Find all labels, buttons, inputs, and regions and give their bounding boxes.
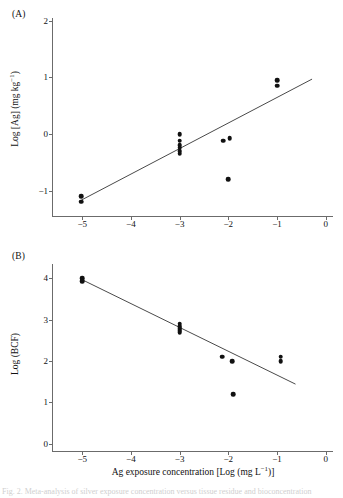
x-tick-label: −5 [77, 220, 87, 229]
panel-a-y-axis-title-sup: −1 [8, 74, 15, 81]
data-point [227, 136, 232, 141]
data-point [231, 392, 236, 397]
data-point [177, 330, 182, 335]
panel-b-regression-line [53, 264, 333, 451]
x-tick-label: 0 [323, 455, 328, 464]
panel-b: (B) Log (BCF) 43210 −5−4−3−2−10 Ag expos… [0, 246, 343, 498]
x-axis-title-pre: Ag exposure concentration [Log (mg L [112, 467, 261, 477]
y-tick-label: 1 [44, 73, 49, 82]
panel-a-y-axis-title-tail: ) [10, 71, 20, 74]
x-tick-label: −5 [77, 455, 87, 464]
data-point [177, 132, 182, 137]
y-tick-label: 4 [44, 274, 49, 283]
panel-a-y-axis-title: Log [Ag] (mg kg−1) [10, 71, 20, 147]
panel-a-y-axis-title-text: Log [Ag] (mg kg [10, 82, 20, 147]
x-tick-label: 0 [323, 220, 328, 229]
panel-b-plot-area: Log (BCF) 43210 −5−4−3−2−10 Ag exposure … [52, 264, 333, 452]
x-axis-title-post: )] [268, 467, 274, 477]
x-tick-label: −2 [224, 220, 234, 229]
data-point [221, 138, 226, 143]
data-point [220, 355, 225, 360]
data-point [80, 279, 85, 284]
data-point [279, 359, 284, 364]
data-point [79, 194, 84, 199]
x-tick-label: −4 [126, 455, 136, 464]
data-point [230, 359, 235, 364]
y-tick-label: 0 [44, 129, 49, 138]
panel-a-plot-area: Log [Ag] (mg kg−1) 210−1 −5−4−3−2−10 [52, 18, 333, 217]
panel-a-label: (A) [12, 9, 26, 19]
data-point [226, 177, 231, 182]
x-tick-label: −1 [272, 455, 282, 464]
panel-b-label: (B) [12, 251, 25, 261]
x-tick-label: −1 [272, 220, 282, 229]
panel-a-regression-line [53, 18, 333, 216]
figure-container: (A) Log [Ag] (mg kg−1) 210−1 −5−4−3−2−10… [0, 0, 343, 498]
panel-b-y-axis-title: Log (BCF) [10, 333, 20, 375]
y-tick-label: −1 [38, 186, 48, 195]
panel-a: (A) Log [Ag] (mg kg−1) 210−1 −5−4−3−2−10 [0, 0, 343, 246]
x-axis-title: Ag exposure concentration [Log (mg L−1)] [112, 467, 275, 477]
data-point [79, 200, 84, 205]
data-point [275, 78, 280, 83]
x-tick-label: −4 [126, 220, 136, 229]
data-point [177, 151, 182, 156]
y-tick-label: 1 [44, 398, 49, 407]
y-tick-label: 0 [44, 439, 49, 448]
y-tick-label: 2 [44, 357, 49, 366]
data-point [275, 84, 280, 89]
x-tick-label: −3 [175, 220, 185, 229]
x-tick-label: −2 [224, 455, 234, 464]
y-tick-label: 3 [44, 315, 49, 324]
x-tick-label: −3 [175, 455, 185, 464]
y-tick-label: 2 [44, 16, 49, 25]
figure-caption: Fig. 2. Meta-analysis of silver exposure… [0, 487, 343, 498]
